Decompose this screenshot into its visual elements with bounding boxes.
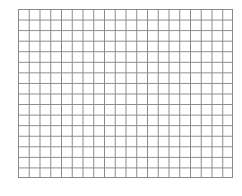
grid-paper	[18, 9, 233, 178]
